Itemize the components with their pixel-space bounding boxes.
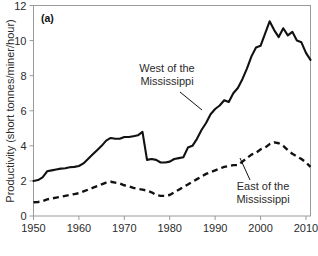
productivity-line-chart: 024681012 1950196019701980199020002010 P… [0, 0, 318, 256]
y-tick-label-2: 2 [20, 175, 26, 187]
annotation-east-line2: Mississippi [236, 193, 289, 205]
x-tick-label-2010: 2010 [294, 222, 318, 234]
y-tick-label-0: 0 [20, 210, 26, 222]
annotation-west-line2: Mississippi [140, 75, 193, 87]
y-tick-label-8: 8 [20, 70, 26, 82]
y-axis-title: Productivity (short tonnes/miner/hour) [4, 19, 16, 202]
chart-background [0, 0, 318, 256]
y-tick-label-12: 12 [14, 0, 26, 12]
x-tick-label-1960: 1960 [67, 222, 91, 234]
panel-label: (a) [41, 12, 54, 24]
x-tick-label-1950: 1950 [21, 222, 45, 234]
x-tick-label-1980: 1980 [157, 222, 181, 234]
annotation-west-line1: West of the [139, 62, 194, 74]
x-tick-label-1990: 1990 [203, 222, 227, 234]
annotation-east-line1: East of the [237, 180, 290, 192]
y-tick-label-10: 10 [14, 35, 26, 47]
x-tick-label-2000: 2000 [248, 222, 272, 234]
y-tick-label-4: 4 [20, 140, 26, 152]
y-tick-label-6: 6 [20, 105, 26, 117]
x-tick-label-1970: 1970 [112, 222, 136, 234]
figure-panel-a: 024681012 1950196019701980199020002010 P… [0, 0, 318, 256]
